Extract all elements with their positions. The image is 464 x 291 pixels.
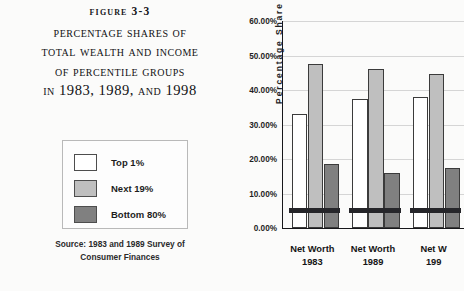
bar-group-1: [352, 21, 400, 228]
plot-area: [282, 21, 464, 229]
figure-number: Figure 3-3: [0, 6, 240, 18]
figure-title-line-2: Total Wealth and Income: [0, 44, 240, 59]
x-axis-label-2-line-0: Net W: [403, 243, 464, 256]
x-axis-label-1-line-0: Net Worth: [343, 243, 404, 256]
x-axis-label-2: Net W199: [403, 243, 464, 268]
y-axis-tick-4: 40.00%: [235, 86, 277, 95]
bar-1-1[interactable]: [368, 69, 384, 228]
bar-groups: [283, 21, 464, 228]
bar-2-2[interactable]: [445, 168, 461, 228]
figure-title-line-3: of Percentile Groups: [0, 64, 240, 79]
chart-legend: Top 1% Next 19% Bottom 80%: [62, 140, 188, 229]
y-axis-tick-2: 20.00%: [235, 155, 277, 164]
legend-label-top-1: Top 1%: [111, 157, 144, 168]
y-axis-tick-labels: 0.00%10.00%20.00%30.00%40.00%50.00%60.00…: [236, 0, 280, 291]
legend-item-next-19: Next 19%: [74, 176, 187, 200]
x-axis-tick-0: [289, 208, 341, 213]
legend-item-top-1: Top 1%: [74, 150, 187, 174]
x-axis-label-2-line-1: 199: [403, 256, 464, 269]
legend-swatch-next-19: [74, 180, 97, 197]
y-axis-tick-6: 60.00%: [235, 17, 277, 26]
legend-label-next-19: Next 19%: [111, 183, 153, 194]
x-axis-label-0: Net Worth1983: [282, 243, 343, 268]
y-axis-tick-3: 30.00%: [235, 120, 277, 129]
x-axis-label-0-line-1: 1983: [282, 256, 343, 269]
y-axis-tick-5: 50.00%: [235, 51, 277, 60]
x-axis-tick-1: [349, 208, 401, 213]
figure-title-line-1: Percentage shares of: [0, 25, 240, 40]
legend-swatch-top-1: [74, 154, 97, 171]
bar-2-1[interactable]: [429, 74, 445, 228]
legend-label-bottom-80: Bottom 80%: [111, 209, 166, 220]
x-axis-label-0-line-0: Net Worth: [282, 243, 343, 256]
source-note: Source: 1983 and 1989 Survey of Consumer…: [10, 238, 230, 264]
y-axis-tick-1: 10.00%: [235, 189, 277, 198]
x-axis-tick-2: [410, 208, 462, 213]
legend-swatch-bottom-80: [74, 206, 97, 223]
source-note-line-1: Source: 1983 and 1989 Survey of: [10, 238, 230, 251]
bar-0-2[interactable]: [324, 164, 340, 228]
y-axis-tick-0: 0.00%: [235, 224, 277, 233]
source-note-line-2: Consumer Finances: [10, 251, 230, 264]
bar-chart: Percentage Share 0.00%10.00%20.00%30.00%…: [236, 0, 464, 291]
figure-page: Figure 3-3 Percentage shares of Total We…: [0, 0, 464, 291]
bar-group-2: [413, 21, 461, 228]
legend-item-bottom-80: Bottom 80%: [74, 202, 187, 226]
bar-group-0: [292, 21, 340, 228]
figure-caption-block: Figure 3-3 Percentage shares of Total We…: [0, 6, 240, 103]
x-axis-label-1-line-1: 1989: [343, 256, 404, 269]
bar-0-1[interactable]: [308, 64, 324, 228]
x-axis-label-1: Net Worth1989: [343, 243, 404, 268]
figure-title-line-4: in 1983, 1989, and 1998: [0, 83, 240, 98]
bar-1-2[interactable]: [384, 173, 400, 228]
